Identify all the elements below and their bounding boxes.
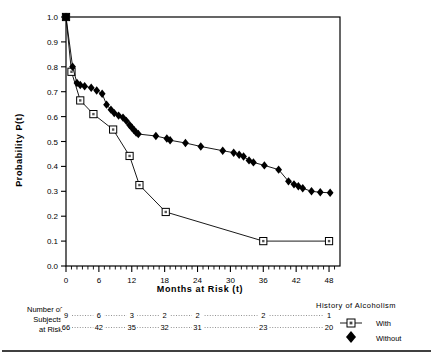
risk-count: 1 [327,311,331,320]
y-tick-label: 1.0 [47,13,59,22]
marker-core [128,155,130,157]
origin-marker [63,14,70,21]
y-axis: 0.00.10.20.30.40.50.60.70.80.91.0 [47,13,66,271]
x-tick-label: 42 [292,276,301,285]
y-tick-label: 0.2 [47,212,59,221]
risk-count: 42 [95,323,103,332]
legend-label-with: With [376,319,391,328]
filled-diamond-marker [308,187,315,195]
x-tick-label: 6 [97,276,102,285]
x-tick-label: 48 [325,276,334,285]
y-tick-label: 0.9 [47,38,59,47]
filled-diamond-marker [197,142,204,150]
risk-count: 6 [97,311,101,320]
marker-core [262,240,264,242]
y-tick-label: 0.3 [47,187,59,196]
risk-count: 23 [259,323,267,332]
marker-core [92,113,94,115]
y-tick-label: 0.0 [47,262,59,271]
risk-count: 20 [325,323,333,332]
risk-table-label-line: at Risk [39,325,62,334]
y-tick-label: 0.6 [47,113,59,122]
filled-diamond-marker [219,147,226,155]
legend-label-without: Without [376,334,402,343]
filled-diamond-icon [346,331,356,343]
filled-diamond-marker [230,149,237,157]
risk-table-label-line: Number of [27,305,63,314]
y-axis-title: Probability P(t) [14,113,24,187]
data-series-layer [62,13,333,245]
filled-diamond-marker [317,188,324,196]
risk-count: 2 [163,311,167,320]
filled-diamond-marker [182,139,189,147]
y-tick-label: 0.1 [47,237,59,246]
risk-count: 3 [130,311,134,320]
y-tick-label: 0.7 [47,88,59,97]
x-axis-title: Months at Risk (t) [157,284,243,294]
legend-entry-without[interactable]: Without [346,331,402,343]
risk-count: 31 [193,323,201,332]
marker-core [165,211,167,213]
survival-curve-figure: 0.00.10.20.30.40.50.60.70.80.91.0 061218… [0,0,440,359]
risk-count: 32 [160,323,168,332]
risk-table-label-line: Subjects [33,315,62,324]
filled-diamond-marker [152,132,159,140]
number-at-risk-table: Number ofSubjectsat Risk9632221664235323… [27,305,335,334]
x-axis: 0612182430364248 [64,266,335,285]
y-tick-label: 0.5 [47,138,59,147]
series-without [63,13,334,197]
risk-count: 66 [62,323,70,332]
marker-core [112,128,114,130]
marker-core [328,240,330,242]
plot-frame [66,17,340,266]
risk-count: 2 [195,311,199,320]
marker-core [138,184,140,186]
risk-count: 9 [64,311,68,320]
y-tick-label: 0.8 [47,63,59,72]
marker-core [70,71,72,73]
y-tick-label: 0.4 [47,162,59,171]
filled-diamond-marker [261,161,268,169]
series-line [66,17,329,241]
risk-count: 35 [128,323,136,332]
legend-title: History of Alcoholism [316,301,396,310]
marker-core [79,99,81,101]
x-tick-label: 12 [127,276,136,285]
series-with [62,13,332,244]
x-tick-label: 36 [259,276,268,285]
legend-entry-with[interactable]: With [340,319,391,328]
filled-diamond-marker [327,189,334,197]
x-tick-label: 0 [64,276,69,285]
risk-count: 2 [261,311,265,320]
kaplan-meier-plot: 0.00.10.20.30.40.50.60.70.80.91.0 061218… [0,0,440,359]
